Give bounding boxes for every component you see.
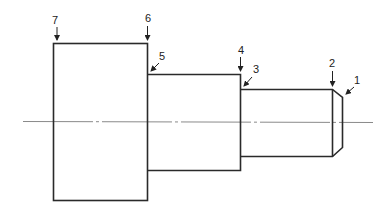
small-diameter-section <box>241 90 343 157</box>
callout-4: 4 <box>238 44 244 71</box>
callout-label-1: 1 <box>354 74 360 86</box>
callout-label-4: 4 <box>238 44 244 56</box>
stepped-shaft-diagram: 7 6 5 4 3 2 1 <box>0 0 392 216</box>
callout-label-6: 6 <box>145 12 151 24</box>
callout-1: 1 <box>346 74 360 94</box>
callout-5: 5 <box>151 50 165 71</box>
callout-label-2: 2 <box>329 57 335 69</box>
center-line <box>23 122 373 123</box>
arrow-diagonal-icon <box>346 87 354 94</box>
callout-7: 7 <box>52 14 58 40</box>
arrow-diagonal-icon <box>244 77 252 86</box>
callout-2: 2 <box>329 57 335 86</box>
callout-3: 3 <box>244 63 259 86</box>
callout-label-7: 7 <box>52 14 58 26</box>
callout-label-5: 5 <box>159 50 165 62</box>
arrow-diagonal-icon <box>151 63 159 71</box>
callout-label-3: 3 <box>253 63 259 75</box>
callout-6: 6 <box>145 12 151 40</box>
